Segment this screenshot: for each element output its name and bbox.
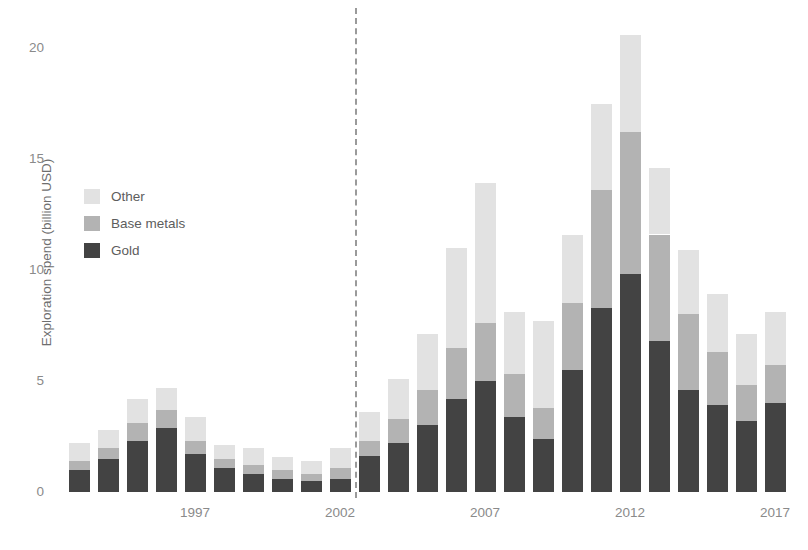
bar-segment-other <box>98 430 119 448</box>
bar-2000 <box>272 456 293 492</box>
bar-segment-other <box>533 321 554 408</box>
bar-2002 <box>330 448 351 492</box>
legend-swatch-icon <box>84 243 100 258</box>
bar-1998 <box>214 445 235 492</box>
chart-legend: OtherBase metalsGold <box>84 183 185 264</box>
legend-swatch-icon <box>84 216 100 231</box>
bar-segment-gold <box>185 454 206 492</box>
bar-segment-base-metals <box>736 385 757 421</box>
bar-segment-gold <box>98 459 119 492</box>
bar-segment-gold <box>533 439 554 492</box>
bar-segment-other <box>765 312 786 365</box>
bar-1996 <box>156 388 177 492</box>
bar-segment-base-metals <box>156 410 177 428</box>
legend-item-other[interactable]: Other <box>84 183 185 210</box>
legend-item-gold[interactable]: Gold <box>84 237 185 264</box>
bar-segment-other <box>562 235 583 304</box>
bar-1997 <box>185 417 206 492</box>
legend-label: Gold <box>111 244 140 258</box>
bar-segment-other <box>504 312 525 374</box>
bar-2006 <box>446 248 467 492</box>
bar-segment-other <box>214 445 235 458</box>
bar-segment-gold <box>504 417 525 492</box>
bar-segment-gold <box>649 341 670 492</box>
bar-segment-other <box>417 334 438 390</box>
legend-label: Base metals <box>111 217 185 231</box>
bar-segment-other <box>127 399 148 423</box>
bar-segment-gold <box>69 470 90 492</box>
bar-segment-gold <box>620 274 641 492</box>
bar-2009 <box>533 321 554 492</box>
bar-1993 <box>69 443 90 492</box>
bar-segment-other <box>649 168 670 235</box>
bar-segment-other <box>156 388 177 410</box>
bar-segment-other <box>301 461 322 474</box>
bar-segment-gold <box>736 421 757 492</box>
bar-2012 <box>620 35 641 492</box>
bar-segment-gold <box>214 468 235 492</box>
bar-1995 <box>127 399 148 492</box>
bar-segment-base-metals <box>330 468 351 479</box>
bar-1994 <box>98 430 119 492</box>
bar-2011 <box>591 104 612 493</box>
bar-segment-gold <box>678 390 699 492</box>
bar-segment-other <box>678 250 699 314</box>
bar-segment-gold <box>156 428 177 492</box>
bar-segment-other <box>359 412 380 441</box>
bar-segment-base-metals <box>243 465 264 474</box>
bar-2007 <box>475 183 496 492</box>
bar-segment-other <box>707 294 728 352</box>
bar-segment-gold <box>388 443 409 492</box>
legend-swatch-icon <box>84 189 100 204</box>
bar-segment-gold <box>359 456 380 492</box>
legend-label: Other <box>111 190 145 204</box>
bar-2014 <box>678 250 699 492</box>
bar-segment-base-metals <box>417 390 438 426</box>
bar-segment-base-metals <box>69 461 90 470</box>
bar-segment-base-metals <box>388 419 409 443</box>
bar-segment-gold <box>127 441 148 492</box>
bar-2004 <box>388 379 409 492</box>
bar-segment-base-metals <box>127 423 148 441</box>
bar-segment-gold <box>301 481 322 492</box>
bar-segment-base-metals <box>533 408 554 439</box>
vertical-dashed-divider <box>355 8 357 498</box>
bar-segment-gold <box>272 479 293 492</box>
bar-segment-gold <box>707 405 728 492</box>
bar-segment-base-metals <box>504 374 525 416</box>
bar-segment-base-metals <box>272 470 293 479</box>
exploration-spend-chart: Exploration spend (billion USD) 05101520… <box>0 0 808 550</box>
bar-segment-base-metals <box>98 448 119 459</box>
bar-segment-base-metals <box>649 235 670 342</box>
bar-segment-other <box>69 443 90 461</box>
bar-segment-gold <box>475 381 496 492</box>
bar-2001 <box>301 461 322 492</box>
bar-2017 <box>765 312 786 492</box>
bar-segment-gold <box>417 425 438 492</box>
bar-segment-other <box>620 35 641 133</box>
bar-2013 <box>649 168 670 492</box>
bar-segment-gold <box>446 399 467 492</box>
bar-2010 <box>562 234 583 492</box>
bar-segment-base-metals <box>765 365 786 403</box>
bar-segment-base-metals <box>620 132 641 274</box>
bar-segment-other <box>591 104 612 191</box>
bar-segment-gold <box>330 479 351 492</box>
bar-segment-base-metals <box>185 441 206 454</box>
bar-segment-other <box>330 448 351 468</box>
bar-segment-base-metals <box>214 459 235 468</box>
bar-2015 <box>707 294 728 492</box>
bar-segment-gold <box>562 370 583 492</box>
bar-segment-base-metals <box>678 314 699 389</box>
bar-segment-other <box>475 183 496 323</box>
bar-2005 <box>417 334 438 492</box>
bar-segment-base-metals <box>591 190 612 308</box>
bar-segment-other <box>272 457 293 470</box>
bar-segment-base-metals <box>301 474 322 481</box>
plot-area <box>0 0 808 550</box>
legend-item-base-metals[interactable]: Base metals <box>84 210 185 237</box>
bar-segment-base-metals <box>446 348 467 399</box>
bar-segment-gold <box>591 308 612 492</box>
bar-segment-other <box>736 334 757 385</box>
bar-segment-other <box>243 448 264 466</box>
